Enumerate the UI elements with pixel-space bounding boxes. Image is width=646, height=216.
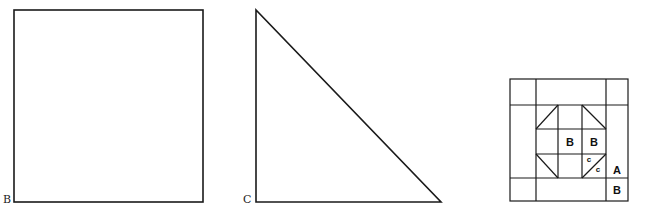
quilt-diagonal-bottom-left [536,154,558,178]
quilt-label-border-a: A [613,165,621,176]
quilt-diagonal-top-left [536,105,558,129]
quilt-label-corner-c-upper: c [587,156,591,164]
quilt-label-center-b: B [566,137,574,148]
quilt-label-middle-right-b: B [590,137,598,148]
quilt-label-corner-c-lower: c [596,166,600,174]
quilt-diagonal-bottom-right [582,154,606,178]
figure-canvas [0,0,646,216]
square-shape [14,10,203,202]
quilt-diagonal-top-right [582,105,606,129]
square-label: B [3,194,11,205]
triangle-label: C [243,194,251,205]
triangle-shape [256,10,441,202]
quilt-label-corner-b: B [613,185,621,196]
